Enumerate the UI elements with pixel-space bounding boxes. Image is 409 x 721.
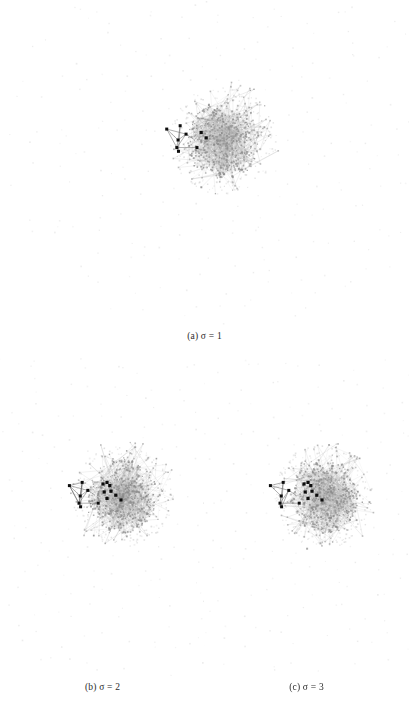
panel-b-network-plot (0, 358, 205, 676)
panel-a-canvas (0, 0, 409, 326)
panel-c-network-plot (204, 358, 409, 676)
panel-b-canvas (0, 358, 205, 676)
panel-c-canvas (204, 358, 409, 676)
panel-c-caption: (c) σ = 3 (204, 682, 409, 692)
panel-a-caption: (a) σ = 1 (0, 331, 409, 341)
figure-root: (a) σ = 1 (b) σ = 2 (c) σ = 3 (0, 0, 409, 721)
panel-b-caption: (b) σ = 2 (0, 682, 205, 692)
panel-a-network-plot (0, 0, 409, 326)
